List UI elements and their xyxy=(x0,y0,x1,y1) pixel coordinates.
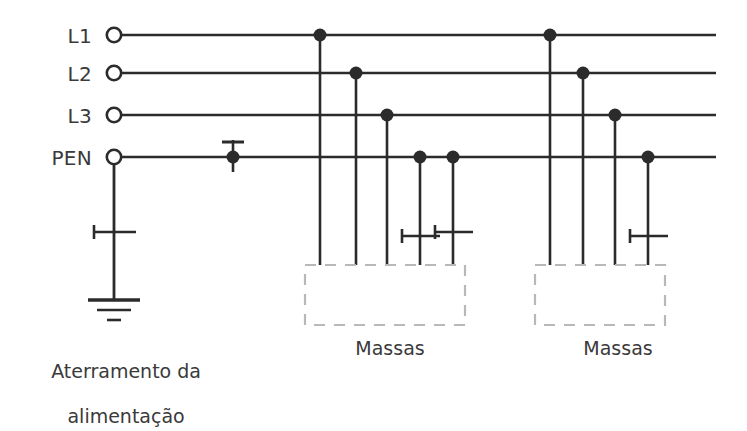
left-load-group-junction-dot-1 xyxy=(314,29,327,42)
rail-label-l1: L1 xyxy=(0,24,92,48)
right-load-group-masses-box xyxy=(535,265,665,325)
left-masses-caption: Massas xyxy=(310,337,470,359)
left-load-group-junction-dot-3 xyxy=(381,109,394,122)
left-load-group-junction-dot-5 xyxy=(447,151,460,164)
rail-label-l2: L2 xyxy=(0,62,92,86)
rail-label-pen: PEN xyxy=(0,146,92,170)
left-load-group-junction-dot-2 xyxy=(350,67,363,80)
left-load-group-junction-dot-4 xyxy=(414,151,427,164)
right-load-group-junction-dot-1 xyxy=(544,29,557,42)
right-load-group-junction-dot-3 xyxy=(609,109,622,122)
terminal-circle-l1[interactable] xyxy=(107,28,121,42)
right-load-group-junction-dot-2 xyxy=(577,67,590,80)
rail-label-l3: L3 xyxy=(0,104,92,128)
terminal-circle-l2[interactable] xyxy=(107,66,121,80)
terminal-circle-l3[interactable] xyxy=(107,108,121,122)
pen-tap-junction-dot xyxy=(227,151,240,164)
source-earth-caption-line1: Aterramento da xyxy=(51,360,201,382)
left-load-group-masses-box xyxy=(305,265,465,325)
source-earth-caption-line2: alimentação xyxy=(67,405,184,427)
right-masses-caption: Massas xyxy=(538,337,698,359)
source-earth-caption: Aterramento da alimentação xyxy=(14,338,214,431)
terminal-circle-pen[interactable] xyxy=(107,150,121,164)
right-load-group-junction-dot-4 xyxy=(642,151,655,164)
